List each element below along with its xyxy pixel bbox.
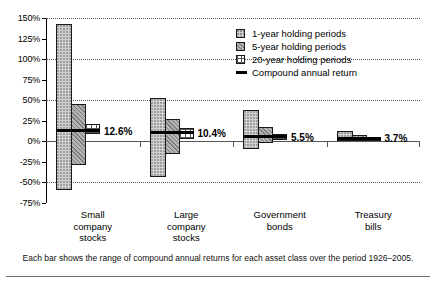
legend-item-compound-return: Compound annual return — [236, 66, 416, 78]
bar — [243, 110, 259, 149]
x-axis-end-tick — [419, 141, 420, 147]
y-tick-mark-25 — [42, 121, 46, 122]
x-axis-divider-tick — [233, 141, 234, 147]
legend-label-20-year: 20-year holding periods — [252, 54, 351, 65]
y-tick-mark-125 — [42, 39, 46, 40]
compound-return-line — [243, 135, 287, 138]
x-axis-divider-tick — [327, 141, 328, 147]
legend-swatch-1-year-icon — [236, 29, 245, 38]
y-tick-label-125: 125% — [18, 34, 40, 44]
bar — [165, 119, 180, 154]
category-label: Large company stocks — [134, 209, 240, 244]
y-tick-mark--25 — [42, 162, 46, 163]
y-tick-label-50: 50% — [23, 95, 40, 105]
compound-return-value-label: 3.7% — [385, 133, 408, 144]
compound-return-line — [337, 137, 381, 140]
chart-footnote: Each bar shows the range of compound ann… — [0, 253, 436, 263]
gridline--50 — [46, 182, 420, 183]
y-tick-mark-150 — [42, 18, 46, 19]
y-tick-label-100: 100% — [18, 54, 40, 64]
legend-label-compound-return: Compound annual return — [252, 67, 357, 78]
legend-swatch-20-year-icon — [236, 55, 245, 64]
compound-return-line — [56, 129, 100, 132]
category-label: Treasury bills — [321, 209, 427, 232]
legend-swatch-5-year-icon — [236, 42, 245, 51]
y-tick-mark--75 — [42, 203, 46, 204]
bar — [71, 104, 86, 165]
legend-item-20-year: 20-year holding periods — [236, 53, 416, 65]
x-axis-divider-tick — [140, 141, 141, 147]
y-tick-mark-75 — [42, 80, 46, 81]
legend-swatch-compound-return-icon — [236, 71, 247, 74]
y-tick-mark-0 — [42, 141, 46, 142]
bottom-rule-divider — [6, 276, 430, 277]
y-tick-label--75: -75% — [20, 198, 40, 208]
y-tick-label--50: -50% — [20, 177, 40, 187]
y-tick-mark-100 — [42, 59, 46, 60]
category-label: Small company stocks — [40, 209, 146, 244]
compound-return-value-label: 10.4% — [198, 127, 226, 138]
legend-label-5-year: 5-year holding periods — [252, 41, 346, 52]
y-tick-mark-50 — [42, 100, 46, 101]
bar — [56, 24, 72, 190]
compound-return-line — [150, 131, 194, 134]
legend-item-1-year: 1-year holding periods — [236, 27, 416, 39]
legend-item-5-year: 5-year holding periods — [236, 40, 416, 52]
y-tick-label-150: 150% — [18, 13, 40, 23]
y-tick-label-75: 75% — [23, 75, 40, 85]
y-tick-mark--50 — [42, 182, 46, 183]
chart-legend: 1-year holding periods 5-year holding pe… — [236, 27, 416, 79]
chart-figure: 12.6%10.4%5.5%3.7% 1-year holding period… — [0, 0, 436, 285]
legend-label-1-year: 1-year holding periods — [252, 28, 346, 39]
y-tick-label--25: -25% — [20, 157, 40, 167]
compound-return-value-label: 5.5% — [291, 131, 314, 142]
gridline-50 — [46, 100, 420, 101]
y-tick-label-0: 0% — [27, 136, 40, 146]
bar — [150, 98, 166, 177]
compound-return-value-label: 12.6% — [104, 125, 132, 136]
gridline-150 — [46, 18, 420, 19]
y-axis-line — [46, 18, 47, 203]
category-label: Government bonds — [227, 209, 333, 232]
y-tick-label-25: 25% — [23, 116, 40, 126]
